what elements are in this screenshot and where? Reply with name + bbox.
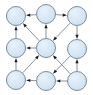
- edge-arrowhead: [56, 79, 60, 82]
- node-circle[interactable]: [37, 72, 56, 91]
- graph-canvas: [0, 0, 93, 95]
- node-circle[interactable]: [68, 40, 87, 59]
- node-circle[interactable]: [68, 7, 87, 26]
- edge-arrowhead: [75, 59, 78, 63]
- node-circle[interactable]: [7, 71, 26, 90]
- edge-arrowhead: [26, 13, 30, 16]
- edge-arrowhead: [63, 13, 67, 16]
- node-circle[interactable]: [7, 7, 26, 26]
- graph-node-bottom-center[interactable]: [37, 72, 56, 91]
- graph-figure: [0, 0, 93, 95]
- graph-edge: [55, 58, 70, 74]
- graph-node-top-right[interactable]: [68, 7, 87, 26]
- node-circle[interactable]: [7, 39, 26, 58]
- graph-node-top-center[interactable]: [37, 5, 56, 24]
- node-circle[interactable]: [68, 72, 87, 91]
- edge-arrowhead: [75, 35, 78, 39]
- node-layer: [7, 5, 87, 91]
- graph-edge: [23, 58, 37, 73]
- edge-arrowhead: [26, 79, 30, 82]
- graph-node-mid-center[interactable]: [37, 39, 56, 58]
- node-circle[interactable]: [37, 5, 56, 24]
- graph-edge: [55, 56, 70, 71]
- edge-arrowhead: [14, 58, 17, 62]
- edge-arrowhead: [14, 26, 17, 30]
- edge-arrowhead: [26, 46, 30, 49]
- graph-node-bottom-right[interactable]: [68, 72, 87, 91]
- graph-node-bottom-left[interactable]: [7, 71, 26, 90]
- node-circle[interactable]: [37, 39, 56, 58]
- graph-edge: [25, 26, 39, 41]
- graph-edge: [55, 23, 70, 38]
- graph-node-mid-left[interactable]: [7, 39, 26, 58]
- graph-node-top-left[interactable]: [7, 7, 26, 26]
- edge-arrowhead: [44, 24, 47, 28]
- graph-node-mid-right[interactable]: [68, 40, 87, 59]
